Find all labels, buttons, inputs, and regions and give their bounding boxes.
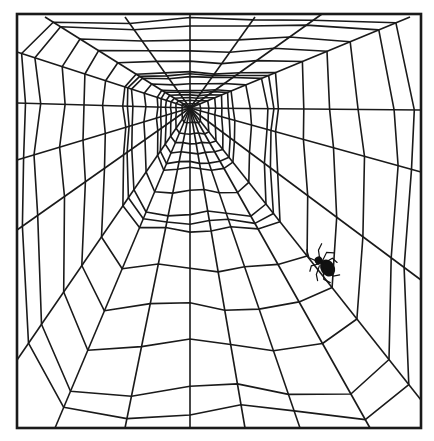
- spiral-thread: [34, 25, 398, 396]
- radial-thread: [190, 108, 421, 110]
- web-drawing: [0, 0, 434, 441]
- web-spiral-threads: [22, 18, 415, 420]
- web-hub: [187, 105, 193, 111]
- radial-thread: [190, 108, 300, 428]
- spider-web-illustration: [0, 0, 434, 441]
- spiral-thread: [127, 74, 274, 225]
